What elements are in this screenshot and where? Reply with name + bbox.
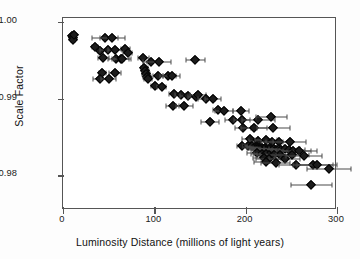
error-bar-cap (350, 167, 351, 172)
x-axis-title: Luminosity Distance (millions of light y… (0, 236, 360, 248)
error-bar-cap (244, 144, 245, 149)
error-bar-cap (291, 183, 292, 188)
scatter-chart-figure: Scale Factor Luminosity Distance (millio… (0, 0, 360, 259)
error-bar-cap (249, 108, 250, 113)
y-tick-label: 0.99 (0, 92, 17, 102)
x-tick (246, 207, 247, 214)
error-bar-cap (176, 104, 177, 109)
y-tick (58, 99, 64, 100)
error-bar-cap (170, 59, 171, 64)
error-bar-cap (224, 118, 225, 123)
error-bar-cap (255, 115, 256, 120)
y-tick-label: 1.00 (0, 15, 17, 25)
error-bar-cap (337, 163, 338, 168)
data-point-marker (205, 117, 215, 127)
error-bar-cap (305, 139, 306, 144)
error-bar-cap (306, 167, 307, 172)
x-tick-label: 100 (145, 214, 161, 224)
y-tick-label: 0.98 (0, 168, 17, 178)
error-bar-cap (214, 108, 215, 113)
plot-frame (62, 17, 336, 209)
error-bar-cap (253, 160, 254, 165)
error-bar-cap (93, 77, 94, 82)
error-bar-cap (179, 74, 180, 79)
error-bar-cap (114, 57, 115, 62)
data-point-marker (154, 57, 164, 67)
error-bar-cap (278, 163, 279, 168)
error-bar-cap (107, 48, 108, 53)
error-bar-cap (159, 74, 160, 79)
error-bar-cap (316, 148, 317, 153)
data-point-marker (268, 123, 278, 133)
error-bar-cap (147, 59, 148, 64)
error-bar-cap (285, 154, 286, 159)
error-bar-cap (247, 151, 248, 156)
x-tick-label: 0 (59, 214, 64, 224)
y-tick (58, 22, 64, 23)
data-point-marker (208, 94, 218, 104)
error-bar-cap (261, 161, 262, 166)
error-bar-cap (331, 183, 332, 188)
error-bar-cap (233, 118, 234, 123)
data-point-marker (306, 180, 316, 190)
error-bar-cap (200, 120, 201, 125)
error-bar-cap (92, 35, 93, 40)
error-bar-cap (107, 56, 108, 61)
data-point-marker (190, 55, 200, 65)
error-bar-cap (192, 104, 193, 109)
x-tick-label: 300 (328, 214, 344, 224)
error-bar-cap (289, 125, 290, 130)
x-tick-label: 200 (237, 214, 253, 224)
error-bar-cap (232, 108, 233, 113)
error-bar-cap (100, 48, 101, 53)
error-bar-cap (204, 97, 205, 102)
error-bar-cap (255, 156, 256, 161)
data-point-marker (179, 101, 189, 111)
error-bar-cap (256, 125, 257, 130)
error-bar-cap (198, 97, 199, 102)
data-point-marker (107, 33, 117, 43)
error-bar-cap (221, 97, 222, 102)
error-bar-cap (286, 115, 287, 120)
error-bar-cap (179, 94, 180, 99)
plot-area (63, 18, 335, 208)
error-bar-cap (121, 71, 122, 76)
error-bar-cap (189, 92, 190, 97)
error-bar-cap (101, 77, 102, 82)
error-bar-cap (296, 163, 297, 168)
x-tick (154, 207, 155, 214)
error-bar-cap (99, 35, 100, 40)
error-bar-cap (293, 162, 294, 167)
error-bar-cap (241, 125, 242, 130)
error-bar-cap (234, 125, 235, 130)
error-bar-cap (163, 74, 164, 79)
error-bar-cap (130, 57, 131, 62)
error-bar-cap (186, 58, 187, 63)
error-bar-cap (219, 120, 220, 125)
error-bar-cap (115, 77, 116, 82)
error-bar-cap (204, 58, 205, 63)
x-tick (63, 207, 64, 214)
y-tick (58, 175, 64, 176)
error-bar-cap (125, 35, 126, 40)
error-bar-cap (322, 154, 323, 159)
x-tick (337, 207, 338, 214)
